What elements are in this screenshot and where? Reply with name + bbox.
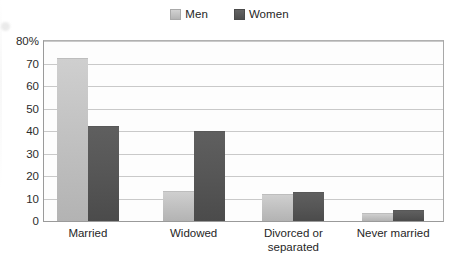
x-tick-label-3: Never married <box>343 226 443 240</box>
bar-men-3[interactable] <box>362 213 393 221</box>
bar-women-3[interactable] <box>393 210 424 221</box>
y-tick-label-70: 70 <box>0 58 39 70</box>
y-tick-label-60: 60 <box>0 80 39 92</box>
x-tick-line: Never married <box>343 226 443 240</box>
y-tick-label-40: 40 <box>0 125 39 137</box>
y-tick-label-0: 0 <box>0 215 39 227</box>
bar-group-2 <box>262 41 324 221</box>
men-swatch-icon <box>170 9 181 20</box>
x-tick-line: Widowed <box>144 226 244 240</box>
x-tick-line: Divorced or <box>244 226 344 240</box>
bar-women-0[interactable] <box>88 126 119 222</box>
legend-label-women: Women <box>249 8 289 20</box>
bar-group-3 <box>362 41 424 221</box>
bar-group-0 <box>57 41 119 221</box>
bar-men-2[interactable] <box>262 194 293 221</box>
y-tick-label-80: 80% <box>0 35 39 47</box>
legend-label-men: Men <box>185 8 208 20</box>
x-axis: MarriedWidowedDivorced orseparatedNever … <box>44 226 443 266</box>
bar-women-2[interactable] <box>293 192 324 221</box>
y-axis: 01020304050607080% <box>0 40 39 222</box>
women-swatch-icon <box>234 9 245 20</box>
scan-speck-artifact <box>1 22 10 31</box>
legend-item-men[interactable]: Men <box>170 8 208 20</box>
x-tick-label-1: Widowed <box>144 226 244 240</box>
chart-legend: Men Women <box>0 8 459 20</box>
bar-men-0[interactable] <box>57 58 88 221</box>
legend-item-women[interactable]: Women <box>234 8 289 20</box>
x-tick-label-0: Married <box>38 226 138 240</box>
x-tick-line: separated <box>244 240 344 254</box>
bar-men-1[interactable] <box>163 191 194 221</box>
y-tick-label-20: 20 <box>0 170 39 182</box>
y-tick-label-50: 50 <box>0 103 39 115</box>
y-tick-label-30: 30 <box>0 148 39 160</box>
bar-women-1[interactable] <box>194 131 225 221</box>
x-tick-line: Married <box>38 226 138 240</box>
y-tick-label-10: 10 <box>0 193 39 205</box>
bars-layer <box>44 41 443 221</box>
bar-group-1 <box>163 41 225 221</box>
x-tick-label-2: Divorced orseparated <box>244 226 344 254</box>
